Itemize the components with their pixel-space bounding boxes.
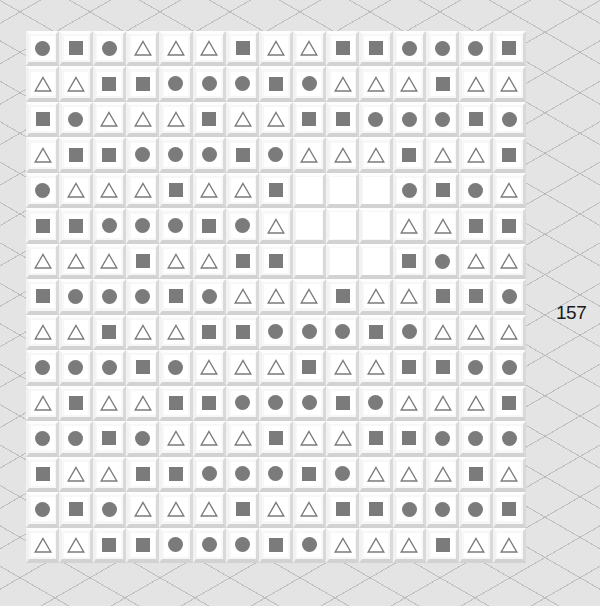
triangle-tile[interactable] xyxy=(393,386,426,421)
square-tile[interactable] xyxy=(226,244,259,279)
circle-tile[interactable] xyxy=(459,350,492,385)
triangle-tile[interactable] xyxy=(93,386,126,421)
square-tile[interactable] xyxy=(93,528,126,563)
circle-tile[interactable] xyxy=(459,173,492,208)
circle-tile[interactable] xyxy=(26,350,59,385)
circle-tile[interactable] xyxy=(493,421,526,456)
triangle-tile[interactable] xyxy=(426,386,459,421)
square-tile[interactable] xyxy=(426,279,459,314)
circle-tile[interactable] xyxy=(259,137,292,172)
square-tile[interactable] xyxy=(459,102,492,137)
circle-tile[interactable] xyxy=(426,492,459,527)
square-tile[interactable] xyxy=(359,31,392,66)
circle-tile[interactable] xyxy=(193,457,226,492)
square-tile[interactable] xyxy=(293,457,326,492)
circle-tile[interactable] xyxy=(26,31,59,66)
square-tile[interactable] xyxy=(393,350,426,385)
square-tile[interactable] xyxy=(226,137,259,172)
square-tile[interactable] xyxy=(26,279,59,314)
circle-tile[interactable] xyxy=(259,315,292,350)
square-tile[interactable] xyxy=(359,315,392,350)
circle-tile[interactable] xyxy=(26,173,59,208)
triangle-tile[interactable] xyxy=(159,421,192,456)
circle-tile[interactable] xyxy=(26,421,59,456)
triangle-tile[interactable] xyxy=(493,457,526,492)
square-tile[interactable] xyxy=(359,421,392,456)
circle-tile[interactable] xyxy=(226,528,259,563)
square-tile[interactable] xyxy=(493,31,526,66)
triangle-tile[interactable] xyxy=(326,66,359,101)
square-tile[interactable] xyxy=(359,492,392,527)
triangle-tile[interactable] xyxy=(459,137,492,172)
circle-tile[interactable] xyxy=(93,492,126,527)
triangle-tile[interactable] xyxy=(293,492,326,527)
triangle-tile[interactable] xyxy=(259,31,292,66)
empty-tile[interactable] xyxy=(326,208,359,243)
square-tile[interactable] xyxy=(259,528,292,563)
circle-tile[interactable] xyxy=(293,386,326,421)
circle-tile[interactable] xyxy=(326,457,359,492)
triangle-tile[interactable] xyxy=(193,244,226,279)
triangle-tile[interactable] xyxy=(393,66,426,101)
circle-tile[interactable] xyxy=(26,492,59,527)
triangle-tile[interactable] xyxy=(26,66,59,101)
circle-tile[interactable] xyxy=(126,279,159,314)
circle-tile[interactable] xyxy=(293,315,326,350)
triangle-tile[interactable] xyxy=(59,457,92,492)
circle-tile[interactable] xyxy=(393,102,426,137)
triangle-tile[interactable] xyxy=(293,137,326,172)
triangle-tile[interactable] xyxy=(426,457,459,492)
circle-tile[interactable] xyxy=(426,421,459,456)
triangle-tile[interactable] xyxy=(293,31,326,66)
square-tile[interactable] xyxy=(259,173,292,208)
square-tile[interactable] xyxy=(93,137,126,172)
empty-tile[interactable] xyxy=(359,244,392,279)
square-tile[interactable] xyxy=(293,102,326,137)
triangle-tile[interactable] xyxy=(293,279,326,314)
circle-tile[interactable] xyxy=(93,208,126,243)
triangle-tile[interactable] xyxy=(426,315,459,350)
empty-tile[interactable] xyxy=(293,244,326,279)
circle-tile[interactable] xyxy=(126,208,159,243)
triangle-tile[interactable] xyxy=(59,66,92,101)
circle-tile[interactable] xyxy=(193,528,226,563)
square-tile[interactable] xyxy=(393,244,426,279)
circle-tile[interactable] xyxy=(293,66,326,101)
empty-tile[interactable] xyxy=(293,173,326,208)
triangle-tile[interactable] xyxy=(359,279,392,314)
square-tile[interactable] xyxy=(159,457,192,492)
circle-tile[interactable] xyxy=(393,31,426,66)
circle-tile[interactable] xyxy=(159,66,192,101)
triangle-tile[interactable] xyxy=(226,102,259,137)
circle-tile[interactable] xyxy=(493,102,526,137)
circle-tile[interactable] xyxy=(159,208,192,243)
circle-tile[interactable] xyxy=(359,386,392,421)
triangle-tile[interactable] xyxy=(26,528,59,563)
triangle-tile[interactable] xyxy=(259,208,292,243)
triangle-tile[interactable] xyxy=(59,528,92,563)
square-tile[interactable] xyxy=(326,492,359,527)
triangle-tile[interactable] xyxy=(93,173,126,208)
square-tile[interactable] xyxy=(326,386,359,421)
circle-tile[interactable] xyxy=(59,279,92,314)
triangle-tile[interactable] xyxy=(93,102,126,137)
triangle-tile[interactable] xyxy=(26,315,59,350)
circle-tile[interactable] xyxy=(359,102,392,137)
circle-tile[interactable] xyxy=(193,279,226,314)
triangle-tile[interactable] xyxy=(359,457,392,492)
square-tile[interactable] xyxy=(259,66,292,101)
triangle-tile[interactable] xyxy=(493,315,526,350)
triangle-tile[interactable] xyxy=(393,279,426,314)
square-tile[interactable] xyxy=(26,457,59,492)
circle-tile[interactable] xyxy=(59,350,92,385)
empty-tile[interactable] xyxy=(359,173,392,208)
circle-tile[interactable] xyxy=(93,31,126,66)
square-tile[interactable] xyxy=(226,492,259,527)
square-tile[interactable] xyxy=(93,315,126,350)
triangle-tile[interactable] xyxy=(493,66,526,101)
triangle-tile[interactable] xyxy=(459,386,492,421)
square-tile[interactable] xyxy=(459,279,492,314)
triangle-tile[interactable] xyxy=(459,244,492,279)
circle-tile[interactable] xyxy=(226,457,259,492)
triangle-tile[interactable] xyxy=(226,350,259,385)
